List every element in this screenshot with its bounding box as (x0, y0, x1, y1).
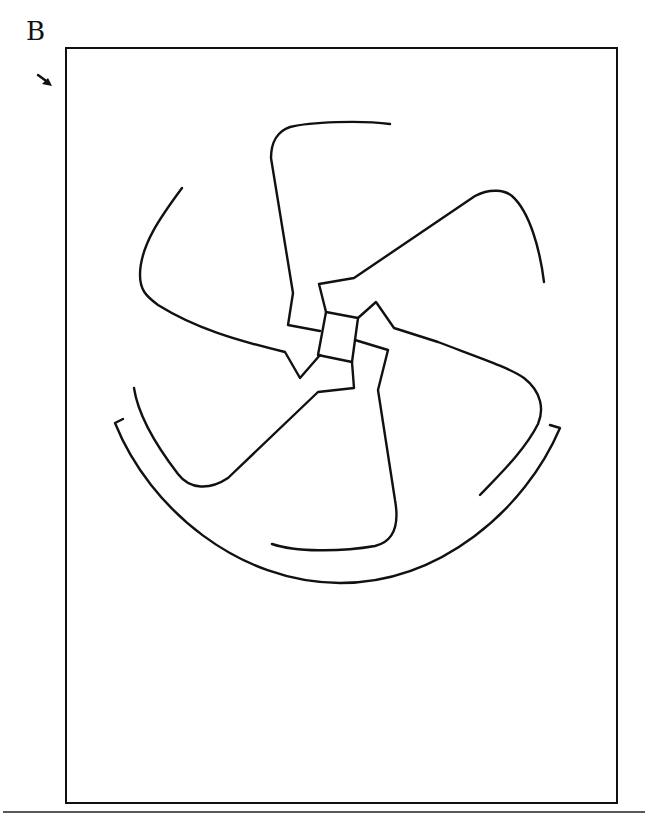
arm-left (140, 188, 320, 378)
central-square (318, 312, 358, 362)
arm-right (358, 302, 541, 495)
arm-top (271, 122, 390, 331)
arrow-down-right-icon (38, 75, 52, 86)
diagram-canvas (0, 0, 645, 818)
arm-right-top (319, 191, 544, 312)
arm-bottom-left (134, 362, 354, 487)
arm-bottom (272, 340, 396, 550)
outer-arc (115, 419, 560, 583)
frame (66, 48, 617, 803)
